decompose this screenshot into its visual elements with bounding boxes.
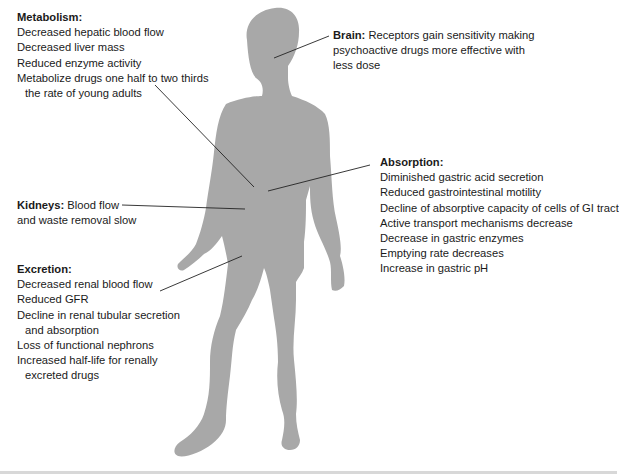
excretion-callout: Excretion: Decreased renal blood flow Re… [17, 262, 180, 384]
metabolism-title: Metabolism: [17, 10, 209, 25]
excretion-line: Decline in renal tubular secretion [17, 308, 180, 323]
absorption-line: Reduced gastrointestinal motility [380, 185, 619, 200]
metabolism-line: Reduced enzyme activity [17, 56, 209, 71]
absorption-line: Decline of absorptive capacity of cells … [380, 201, 619, 216]
metabolism-callout: Metabolism: Decreased hepatic blood flow… [17, 10, 209, 101]
kidneys-line: and waste removal slow [17, 213, 136, 228]
excretion-line: Increased half-life for renally [17, 353, 180, 368]
brain-line: Receptors gain sensitivity making [365, 29, 534, 41]
absorption-line: Diminished gastric acid secretion [380, 170, 619, 185]
absorption-callout: Absorption: Diminished gastric acid secr… [380, 155, 619, 277]
brain-callout: Brain: Receptors gain sensitivity making… [333, 28, 534, 74]
excretion-line: Reduced GFR [17, 292, 180, 307]
kidneys-title: Kidneys: [17, 199, 64, 211]
brain-line: less dose [333, 58, 534, 73]
excretion-line: Decreased renal blood flow [17, 277, 180, 292]
absorption-title: Absorption: [380, 155, 619, 170]
metabolism-line: the rate of young adults [17, 86, 209, 101]
brain-line: psychoactive drugs more effective with [333, 43, 534, 58]
excretion-line: excreted drugs [17, 368, 180, 383]
excretion-line: and absorption [17, 323, 180, 338]
metabolism-line: Decreased liver mass [17, 40, 209, 55]
kidneys-line: Blood flow [64, 199, 119, 211]
metabolism-line: Metabolize drugs one half to two thirds [17, 71, 209, 86]
excretion-title: Excretion: [17, 262, 180, 277]
brain-title: Brain: [333, 29, 365, 41]
metabolism-line: Decreased hepatic blood flow [17, 25, 209, 40]
absorption-line: Emptying rate decreases [380, 246, 619, 261]
excretion-line: Loss of functional nephrons [17, 338, 180, 353]
absorption-line: Decrease in gastric enzymes [380, 231, 619, 246]
absorption-line: Active transport mechanisms decrease [380, 216, 619, 231]
absorption-line: Increase in gastric pH [380, 261, 619, 276]
kidneys-callout: Kidneys: Blood flow and waste removal sl… [17, 198, 136, 228]
